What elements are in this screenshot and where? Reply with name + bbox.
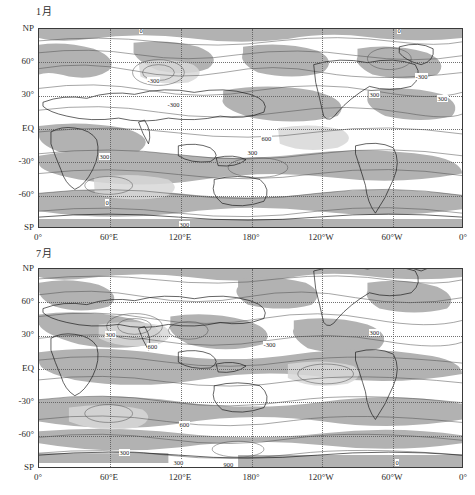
contour-label: 0 bbox=[397, 28, 401, 34]
contour-label: 600 bbox=[147, 343, 158, 350]
xlabel-120w: 120°W bbox=[301, 233, 341, 242]
xlabel-60e: 60°E bbox=[89, 473, 129, 482]
contour-label: 300 bbox=[105, 331, 116, 338]
ylabel-30s: -30° bbox=[0, 157, 34, 166]
ylabel-np: NP bbox=[0, 264, 34, 273]
contour-label: 300 bbox=[247, 149, 258, 156]
ylabel-30n: 30° bbox=[0, 90, 34, 99]
contour-label: 300 bbox=[369, 329, 380, 336]
xlabel-0: 0° bbox=[18, 473, 58, 482]
map-plot-january: 0 0 -300 -300 300 300 300 300 600 0 300 … bbox=[38, 28, 463, 228]
ylabel-sp: SP bbox=[0, 463, 34, 472]
gridline-lon-60e bbox=[110, 269, 111, 467]
gridline-lon-60e bbox=[110, 29, 111, 227]
ylabel-60n: 60° bbox=[0, 297, 34, 306]
gridline-lat-30s bbox=[39, 162, 462, 163]
map-contours-january bbox=[39, 29, 462, 227]
ylabel-60s: -60° bbox=[0, 190, 34, 199]
gridline-lat-30n bbox=[39, 336, 462, 337]
contour-label: 300 bbox=[173, 459, 184, 466]
xlabel-60w: 60°W bbox=[372, 233, 412, 242]
gridline-lat-60n bbox=[39, 302, 462, 303]
gridline-lon-120e bbox=[181, 29, 182, 227]
gridline-lon-120w bbox=[322, 269, 323, 467]
xlabel-360: 0° bbox=[443, 473, 475, 482]
gridline-lat-eq bbox=[39, 129, 462, 130]
contour-label: 0 bbox=[139, 28, 143, 34]
ylabel-60n: 60° bbox=[0, 57, 34, 66]
gridline-lon-60w bbox=[393, 269, 394, 467]
ylabel-30n: 30° bbox=[0, 330, 34, 339]
contour-label: -300 bbox=[263, 341, 276, 348]
contour-label: 300 bbox=[119, 449, 130, 456]
contour-label: 600 bbox=[261, 135, 272, 142]
xlabel-60w: 60°W bbox=[372, 473, 412, 482]
contour-label: 300 bbox=[437, 95, 448, 102]
contour-label: 300 bbox=[179, 221, 190, 228]
xlabel-120e: 120°E bbox=[160, 233, 200, 242]
map-plot-july: 300 600 300 -300 600 300 300 900 0 bbox=[38, 268, 463, 468]
gridline-lat-60s bbox=[39, 436, 462, 437]
xlabel-180: 180° bbox=[231, 233, 271, 242]
ylabel-np: NP bbox=[0, 24, 34, 33]
gridline-lon-120e bbox=[181, 269, 182, 467]
gridline-lon-120w bbox=[322, 29, 323, 227]
gridline-lat-60s bbox=[39, 196, 462, 197]
ylabel-60s: -60° bbox=[0, 430, 34, 439]
contour-label: -300 bbox=[415, 73, 428, 80]
gridline-lon-180 bbox=[252, 269, 253, 467]
contour-label: 0 bbox=[395, 459, 399, 466]
contour-label: 900 bbox=[223, 461, 234, 468]
ylabel-30s: -30° bbox=[0, 397, 34, 406]
figure-root: 1月 bbox=[0, 0, 475, 495]
xlabel-60e: 60°E bbox=[89, 233, 129, 242]
xlabel-120e: 120°E bbox=[160, 473, 200, 482]
panel-title-july: 7月 bbox=[36, 248, 52, 259]
contour-label: 600 bbox=[179, 421, 190, 428]
panel-title-january: 1月 bbox=[36, 6, 52, 17]
contour-label: 300 bbox=[99, 153, 110, 160]
gridline-lat-30s bbox=[39, 402, 462, 403]
ylabel-eq: EQ bbox=[0, 124, 34, 133]
gridline-lat-30n bbox=[39, 96, 462, 97]
xlabel-180: 180° bbox=[231, 473, 271, 482]
xlabel-360: 0° bbox=[443, 233, 475, 242]
gridline-lat-60n bbox=[39, 62, 462, 63]
ylabel-eq: EQ bbox=[0, 364, 34, 373]
ylabel-sp: SP bbox=[0, 223, 34, 232]
contour-label: -300 bbox=[167, 101, 180, 108]
contour-label: 0 bbox=[105, 199, 109, 206]
contour-label: 300 bbox=[369, 91, 380, 98]
map-contours-july bbox=[39, 269, 462, 467]
gridline-lon-180 bbox=[252, 29, 253, 227]
gridline-lat-eq bbox=[39, 369, 462, 370]
xlabel-120w: 120°W bbox=[301, 473, 341, 482]
contour-label: -300 bbox=[147, 77, 160, 84]
xlabel-0: 0° bbox=[18, 233, 58, 242]
gridline-lon-60w bbox=[393, 29, 394, 227]
